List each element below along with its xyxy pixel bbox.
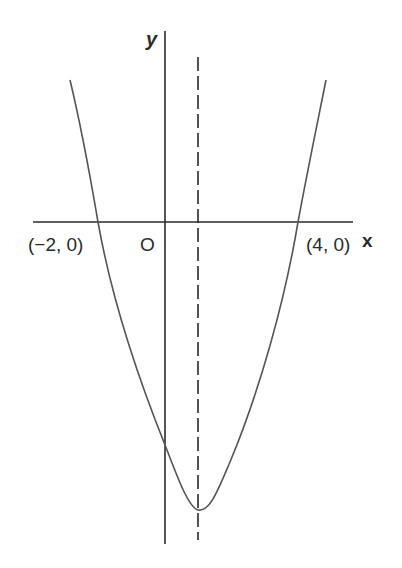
y-axis-label: y xyxy=(145,28,158,50)
point-label-right-root: (4, 0) xyxy=(306,234,350,255)
parabola-diagram: y x O (−2, 0) (4, 0) xyxy=(0,0,402,568)
point-label-left-root: (−2, 0) xyxy=(28,234,83,255)
origin-label: O xyxy=(140,234,155,255)
x-axis-label: x xyxy=(362,230,373,251)
